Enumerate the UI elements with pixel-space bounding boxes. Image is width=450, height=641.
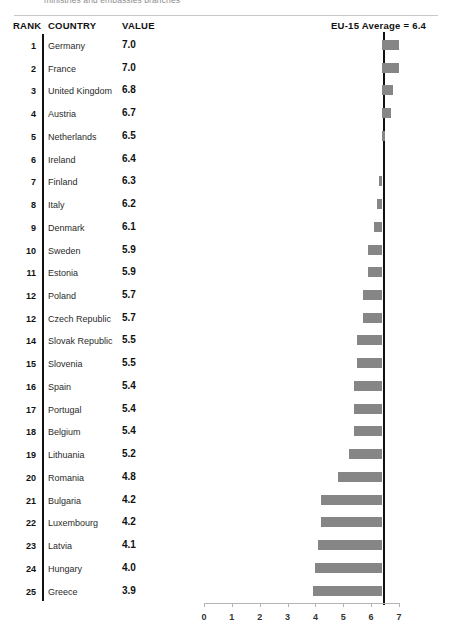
value-bar xyxy=(357,358,382,368)
value-bar xyxy=(382,63,399,73)
cell-rank: 1 xyxy=(12,40,36,52)
axis-tick-label: 2 xyxy=(250,612,270,622)
cell-country: Czech Republic xyxy=(48,313,111,325)
cell-rank: 22 xyxy=(12,517,36,529)
table-row[interactable]: 9Denmark6.1 xyxy=(0,220,450,243)
axis-tick-label: 3 xyxy=(278,612,298,622)
cell-value: 5.5 xyxy=(122,357,136,369)
value-bar xyxy=(354,426,382,436)
value-bar xyxy=(321,517,382,527)
cell-rank: 4 xyxy=(12,108,36,120)
value-bar xyxy=(354,381,382,391)
cell-value: 7.0 xyxy=(122,39,136,51)
cell-country: Luxembourg xyxy=(48,517,98,529)
cell-rank: 10 xyxy=(12,245,36,257)
cell-country: Finland xyxy=(48,176,78,188)
table-row[interactable]: 11Estonia5.9 xyxy=(0,265,450,288)
cell-country: Portugal xyxy=(48,404,82,416)
table-row[interactable]: 5Netherlands6.5 xyxy=(0,129,450,152)
axis-tick-label: 4 xyxy=(305,612,325,622)
table-row[interactable]: 3United Kingdom6.8 xyxy=(0,83,450,106)
cell-country: Spain xyxy=(48,381,71,393)
value-bar xyxy=(354,404,382,414)
value-bar xyxy=(368,267,382,277)
cell-rank: 14 xyxy=(12,335,36,347)
cell-rank: 12 xyxy=(12,313,36,325)
cell-rank: 21 xyxy=(12,495,36,507)
cell-rank: 2 xyxy=(12,63,36,75)
cell-rank: 19 xyxy=(12,449,36,461)
value-bar xyxy=(377,199,383,209)
value-axis: 01234567 xyxy=(0,603,450,641)
value-bar xyxy=(382,131,385,141)
axis-line xyxy=(204,603,399,604)
cell-rank: 5 xyxy=(12,131,36,143)
cell-value: 6.7 xyxy=(122,107,136,119)
table-row[interactable]: 4Austria6.7 xyxy=(0,106,450,129)
cell-value: 5.7 xyxy=(122,312,136,324)
table-row[interactable]: 6Ireland6.4 xyxy=(0,152,450,175)
value-bar xyxy=(368,245,382,255)
table-row[interactable]: 14Slovak Republic5.5 xyxy=(0,333,450,356)
table-row[interactable]: 8Italy6.2 xyxy=(0,197,450,220)
cell-country: United Kingdom xyxy=(48,85,112,97)
value-bar xyxy=(349,449,382,459)
value-bar xyxy=(363,313,382,323)
table-row[interactable]: 24Hungary4.0 xyxy=(0,561,450,584)
cell-value: 5.5 xyxy=(122,334,136,346)
cell-country: Estonia xyxy=(48,267,78,279)
cell-value: 4.0 xyxy=(122,562,136,574)
cell-rank: 24 xyxy=(12,563,36,575)
axis-tick xyxy=(288,603,289,607)
cell-value: 6.8 xyxy=(122,84,136,96)
cell-country: Denmark xyxy=(48,222,85,234)
cell-rank: 12 xyxy=(12,290,36,302)
axis-tick xyxy=(343,603,344,607)
cell-value: 6.5 xyxy=(122,130,136,142)
axis-tick xyxy=(399,603,400,607)
axis-tick-label: 5 xyxy=(333,612,353,622)
value-bar xyxy=(374,222,382,232)
cell-value: 5.7 xyxy=(122,289,136,301)
axis-tick xyxy=(204,603,205,607)
cell-country: Hungary xyxy=(48,563,82,575)
cell-rank: 16 xyxy=(12,381,36,393)
value-bar xyxy=(313,586,383,596)
cell-value: 4.2 xyxy=(122,516,136,528)
table-row[interactable]: 2France7.0 xyxy=(0,61,450,84)
value-bar xyxy=(321,495,382,505)
table-row[interactable]: 20Romania4.8 xyxy=(0,470,450,493)
table-row[interactable]: 19Lithuania5.2 xyxy=(0,447,450,470)
cell-country: Italy xyxy=(48,199,65,211)
cell-value: 5.4 xyxy=(122,403,136,415)
axis-tick xyxy=(232,603,233,607)
cell-value: 4.8 xyxy=(122,471,136,483)
cell-country: Germany xyxy=(48,40,85,52)
cell-value: 3.9 xyxy=(122,585,136,597)
table-row[interactable]: 22Luxembourg4.2 xyxy=(0,515,450,538)
table-row[interactable]: 23Latvia4.1 xyxy=(0,538,450,561)
table-row[interactable]: 10Sweden5.9 xyxy=(0,243,450,266)
value-bar xyxy=(357,335,382,345)
table-row[interactable]: 12Poland5.7 xyxy=(0,288,450,311)
table-row[interactable]: 15Slovenia5.5 xyxy=(0,356,450,379)
cell-country: Romania xyxy=(48,472,84,484)
table-row[interactable]: 1Germany7.0 xyxy=(0,38,450,61)
cell-rank: 17 xyxy=(12,404,36,416)
table-row[interactable]: 16Spain5.4 xyxy=(0,379,450,402)
table-row[interactable]: 21Bulgaria4.2 xyxy=(0,493,450,516)
table-row[interactable]: 17Portugal5.4 xyxy=(0,402,450,425)
cell-value: 4.1 xyxy=(122,539,136,551)
axis-tick xyxy=(315,603,316,607)
cell-rank: 20 xyxy=(12,472,36,484)
table-row[interactable]: 7Finland6.3 xyxy=(0,174,450,197)
axis-tick xyxy=(371,603,372,607)
cell-rank: 11 xyxy=(12,267,36,279)
axis-tick-label: 1 xyxy=(222,612,242,622)
value-bar xyxy=(338,472,383,482)
cell-country: Sweden xyxy=(48,245,81,257)
table-row[interactable]: 12Czech Republic5.7 xyxy=(0,311,450,334)
table-row[interactable]: 18Belgium5.4 xyxy=(0,424,450,447)
cell-country: Bulgaria xyxy=(48,495,81,507)
cell-rank: 15 xyxy=(12,358,36,370)
